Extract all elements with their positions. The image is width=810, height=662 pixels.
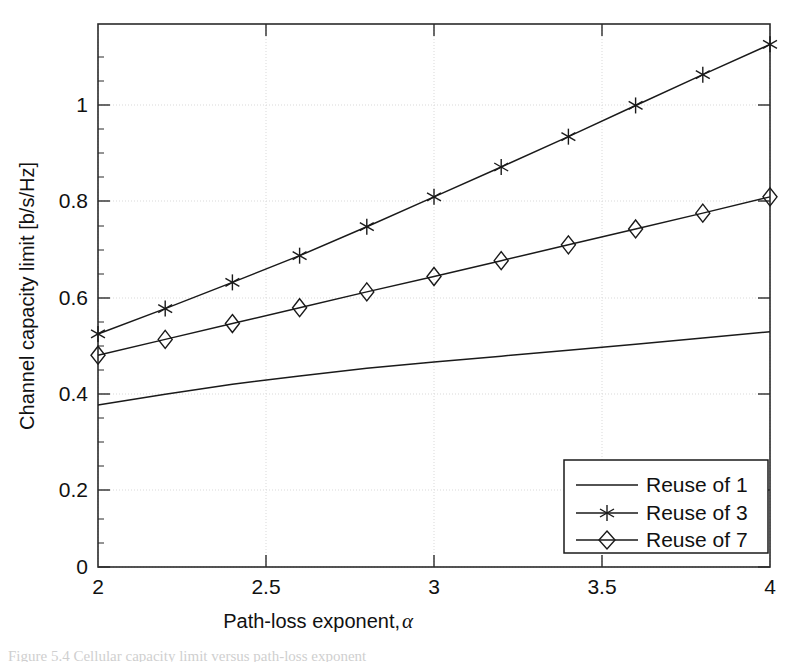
x-axis-title-symbol: α: [402, 609, 414, 633]
page-caption: Figure 5.4 Cellular capacity limit versu…: [8, 648, 478, 662]
legend-label: Reuse of 1: [646, 473, 748, 496]
x-axis-title-text: Path-loss exponent,: [223, 610, 400, 632]
y-tick-label: 1: [76, 93, 88, 116]
legend[interactable]: Reuse of 1 Reuse of 3 Reuse of 7: [564, 460, 768, 553]
y-tick-label: 0: [76, 555, 88, 578]
x-tick-label: 2.5: [251, 575, 280, 598]
y-tick-label: 0.6: [59, 286, 88, 309]
figure-container: 0 0.2 0.4 0.6 0.8 1 2 2.5 3 3.5 4 Path-l…: [0, 0, 810, 662]
legend-label: Reuse of 3: [646, 501, 748, 524]
x-tick-label: 3: [428, 575, 440, 598]
x-tick-label: 3.5: [587, 575, 616, 598]
capacity-limit-chart: 0 0.2 0.4 0.6 0.8 1 2 2.5 3 3.5 4 Path-l…: [0, 0, 810, 662]
y-tick-label: 0.8: [59, 189, 88, 212]
y-tick-labels: 0 0.2 0.4 0.6 0.8 1: [59, 93, 89, 578]
x-tick-label: 4: [764, 575, 776, 598]
x-axis-title: Path-loss exponent, α: [223, 609, 414, 633]
y-axis-title: Channel capacity limit [b/s/Hz]: [16, 162, 38, 430]
x-tick-labels: 2 2.5 3 3.5 4: [92, 575, 776, 598]
legend-label: Reuse of 7: [646, 528, 748, 551]
y-tick-label: 0.2: [59, 478, 88, 501]
y-tick-label: 0.4: [59, 382, 89, 405]
x-tick-label: 2: [92, 575, 104, 598]
